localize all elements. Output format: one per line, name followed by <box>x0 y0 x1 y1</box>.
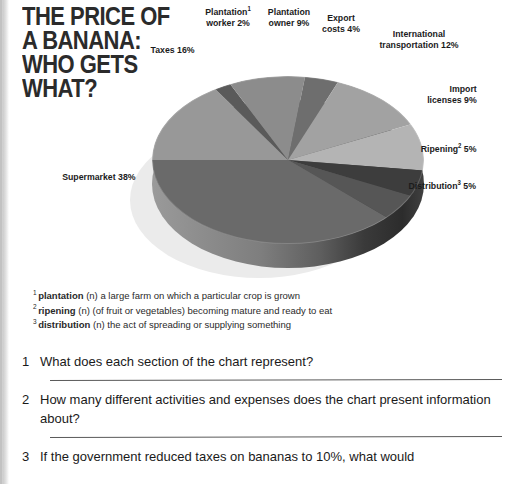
footnote-definition: (n) (of fruit or vegetables) becoming ma… <box>78 305 332 316</box>
pie-top-face <box>152 76 424 244</box>
pie-chart: Taxes 16% Plantation1 worker 2% Plantati… <box>0 0 505 290</box>
question-number: 3 <box>22 447 40 466</box>
pie-label-plantation-worker: Plantation1 worker 2% <box>199 6 258 28</box>
question-number: 2 <box>22 390 40 409</box>
footnote-item: 1plantation (n) a large farm on which a … <box>33 289 463 304</box>
footnote-term: ripening <box>38 305 75 316</box>
glossary-footnotes: 1plantation (n) a large farm on which a … <box>33 289 463 333</box>
pie-label-supermarket: Supermarket 38% <box>62 171 158 182</box>
footnote-definition: (n) the act of spreading or supplying so… <box>93 319 291 330</box>
question-separator <box>50 436 502 438</box>
question-text: What does each section of the chart repr… <box>40 352 500 371</box>
pie-label-export-costs: Export costs 4% <box>318 12 364 34</box>
footnote-marker: 3 <box>33 318 37 325</box>
question-separator <box>50 379 502 381</box>
footnote-definition: (n) a large farm on which a particular c… <box>86 290 300 301</box>
footnote-item: 2ripening (n) (of fruit or vegetables) b… <box>33 304 463 319</box>
footnote-marker: 1 <box>33 289 37 296</box>
pie-label-taxes: Taxes 16% <box>151 44 210 55</box>
pie-label-import-licenses: Import licenses 9% <box>401 83 476 105</box>
question-number: 1 <box>22 352 40 371</box>
footnote-marker: 2 <box>33 303 37 310</box>
pie-slices-svg <box>152 76 424 244</box>
pie-label-plantation-owner: Plantation owner 9% <box>260 6 317 28</box>
questions-list: 1 What does each section of the chart re… <box>22 352 500 466</box>
pie-label-distribution: Distribution3 5% <box>382 180 476 191</box>
question-item: 1 What does each section of the chart re… <box>22 352 500 371</box>
pie-label-ripening: Ripening2 5% <box>396 143 477 154</box>
question-text: If the government reduced taxes on banan… <box>40 447 500 466</box>
question-text: How many different activities and expens… <box>40 390 500 428</box>
pie-label-international-transportation: International transportation 12% <box>365 28 474 50</box>
question-item: 2 How many different activities and expe… <box>22 390 500 428</box>
question-item: 3 If the government reduced taxes on ban… <box>22 447 500 466</box>
footnote-term: plantation <box>38 290 83 301</box>
footnote-item: 3distribution (n) the act of spreading o… <box>33 318 463 333</box>
footnote-term: distribution <box>38 319 90 330</box>
